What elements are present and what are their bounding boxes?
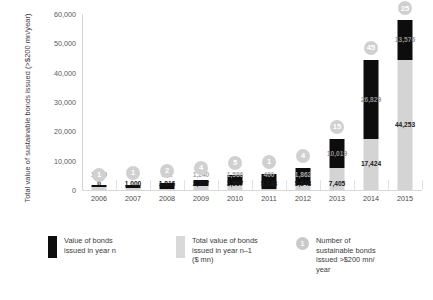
bond-count-badge: 5	[228, 156, 242, 170]
bar-segment-gray	[160, 189, 175, 190]
sustainable-bonds-chart: Total value of sustainable bonds issued …	[0, 0, 433, 300]
legend-label: Value of bonds issued in year n	[64, 236, 116, 255]
bar-value-label-gray: 1,862	[295, 171, 312, 178]
legend-item: Total value of bonds issued in year n–1 …	[176, 236, 258, 265]
bar-column: 5,5431,8624	[286, 14, 320, 190]
bar-value-label-black: 2,317	[193, 180, 210, 187]
bar-value-label-black: 10,019	[327, 150, 347, 157]
bar-value-label-gray: 400	[263, 171, 274, 178]
bar-value-label-gray: 17,424	[361, 160, 381, 167]
bar-value-label-gray: 44,253	[395, 121, 415, 128]
x-axis-tick-labels: 2006200720082009201020112012201320142015	[82, 194, 422, 208]
y-tick-label: 20,000	[54, 127, 76, 136]
x-axis-line	[82, 190, 422, 191]
y-tick-label: 10,000	[54, 156, 76, 165]
bar-column: 13,57644,25313,57644,25325	[388, 14, 422, 190]
bar-value-label-black: 3,557	[227, 180, 244, 187]
legend-item: 1Number of sustainable bonds issued >$20…	[296, 236, 376, 274]
y-tick-label: 40,000	[54, 68, 76, 77]
bond-count-badge: 1	[92, 168, 106, 182]
x-tick-label: 2008	[159, 194, 175, 203]
y-tick-label: 60,000	[54, 10, 76, 19]
bar-value-label-black: 26,829	[361, 96, 381, 103]
bond-count-badge: 15	[330, 120, 344, 134]
bar-value-label-black: 1,000	[125, 180, 142, 187]
bar-column: 5,1434001	[252, 14, 286, 190]
y-tick-label: 0	[72, 186, 76, 195]
x-tick-label: 2012	[295, 194, 311, 203]
bar-value-label-gray: 1,586	[227, 171, 244, 178]
bond-count-badge: 25	[398, 1, 412, 15]
bar-value-label-gray: 7,405	[329, 180, 346, 187]
column-separator	[422, 180, 423, 190]
x-tick-label: 2014	[363, 194, 379, 203]
stacked-bar	[92, 187, 107, 190]
bar-value-label-black: 5,543	[295, 180, 312, 187]
bar-value-label-black: 1,816	[159, 180, 176, 187]
legend-swatch-gray-icon	[176, 236, 185, 258]
bar-columns: 01,00011,00081611,81650122,3171,24043,55…	[82, 14, 422, 190]
bar-column: 1,8165012	[150, 14, 184, 190]
legend-item: Value of bonds issued in year n	[48, 236, 116, 258]
bar-column: 2,3171,2404	[184, 14, 218, 190]
stacked-bar	[364, 60, 379, 190]
stacked-bar	[398, 20, 413, 190]
bond-count-badge: 4	[194, 161, 208, 175]
legend-badge-circle-icon: 1	[296, 237, 309, 250]
bond-count-badge: 2	[160, 164, 174, 178]
plot-area: 01,00011,00081611,81650122,3171,24043,55…	[82, 14, 422, 190]
y-tick-label: 50,000	[54, 39, 76, 48]
bond-count-badge: 45	[364, 41, 378, 55]
x-tick-label: 2013	[329, 194, 345, 203]
bond-count-badge: 4	[296, 149, 310, 163]
bar-column: 3,5571,5865	[218, 14, 252, 190]
legend-label: Number of sustainable bonds issued >$200…	[316, 236, 376, 274]
bar-column: 10,0197,40510,0197,40515	[320, 14, 354, 190]
x-tick-label: 2010	[227, 194, 243, 203]
bond-count-badge: 1	[262, 155, 276, 169]
bar-segment-gray	[262, 189, 277, 190]
bar-column: 26,82917,42426,82917,42445	[354, 14, 388, 190]
bond-count-badge: 1	[126, 166, 140, 180]
x-tick-label: 2011	[261, 194, 276, 203]
y-tick-label: 30,000	[54, 98, 76, 107]
bar-value-label-black: 5,143	[261, 180, 278, 187]
bar-value-label-black: 13,576	[395, 36, 415, 43]
x-tick-label: 2007	[125, 194, 141, 203]
x-tick-label: 2015	[397, 194, 413, 203]
x-tick-label: 2006	[91, 194, 107, 203]
chart-legend: Value of bonds issued in year nTotal val…	[48, 236, 428, 294]
legend-label: Total value of bonds issued in year n–1 …	[192, 236, 258, 265]
x-tick-label: 2009	[193, 194, 209, 203]
legend-swatch-black-icon	[48, 236, 57, 258]
bar-segment-gray	[92, 187, 107, 190]
bar-column: 1,0008161	[116, 14, 150, 190]
bar-column: 01,0001	[82, 14, 116, 190]
y-axis-title-wrap: Total value of sustainable bonds issued …	[0, 8, 26, 208]
bar-segment-gray	[126, 188, 141, 190]
y-axis-tick-labels: 60,00050,00040,00030,00020,00010,0000	[30, 14, 76, 190]
